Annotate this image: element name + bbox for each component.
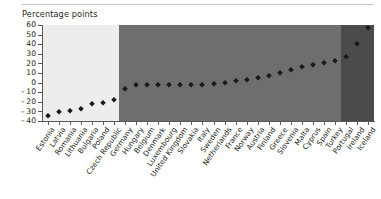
chart-figure: Percentage points –40–30–20–100102030405… xyxy=(0,0,381,199)
x-axis-tick xyxy=(147,121,148,125)
y-axis-tick-label: –30 xyxy=(21,108,36,116)
x-axis-tick xyxy=(158,121,159,125)
x-axis-tick xyxy=(302,121,303,125)
x-axis-tick xyxy=(357,121,358,125)
y-axis-tick xyxy=(38,44,42,45)
x-axis-tick xyxy=(125,121,126,125)
top-divider-rule xyxy=(22,4,374,5)
y-axis-tick-label: 20 xyxy=(26,60,36,68)
y-axis-tick xyxy=(38,54,42,55)
axis-title: Percentage points xyxy=(22,9,98,19)
y-axis-tick-label: 40 xyxy=(26,40,36,48)
x-axis-tick xyxy=(114,121,115,125)
x-axis-tick xyxy=(202,121,203,125)
x-axis-tick xyxy=(368,121,369,125)
y-axis-tick xyxy=(38,35,42,36)
y-axis-tick-label: –20 xyxy=(21,98,36,106)
y-axis-tick xyxy=(38,83,42,84)
x-axis-tick xyxy=(103,121,104,125)
x-axis-tick xyxy=(258,121,259,125)
x-axis-tick xyxy=(214,121,215,125)
x-axis-tick xyxy=(280,121,281,125)
band-mid xyxy=(119,25,340,121)
x-axis-tick xyxy=(225,121,226,125)
y-axis-tick-label: 30 xyxy=(26,50,36,58)
x-axis-tick xyxy=(346,121,347,125)
x-axis-tick xyxy=(236,121,237,125)
x-axis-tick xyxy=(191,121,192,125)
y-axis-tick-label: 10 xyxy=(26,69,36,77)
y-axis-tick-label: 60 xyxy=(26,21,36,29)
y-axis-tick-label: 50 xyxy=(26,31,36,39)
x-axis-tick xyxy=(92,121,93,125)
x-axis-tick xyxy=(313,121,314,125)
x-axis-tick xyxy=(48,121,49,125)
y-axis-tick xyxy=(38,63,42,64)
band-dark xyxy=(341,25,374,121)
y-axis-tick-label: –40 xyxy=(21,117,36,125)
y-axis-tick xyxy=(38,73,42,74)
x-axis-tick xyxy=(180,121,181,125)
x-axis-tick xyxy=(81,121,82,125)
y-axis-tick xyxy=(38,25,42,26)
x-axis-tick xyxy=(136,121,137,125)
x-axis-tick xyxy=(169,121,170,125)
y-axis-tick xyxy=(38,92,42,93)
x-axis-tick xyxy=(324,121,325,125)
y-axis-tick-label: –10 xyxy=(21,88,36,96)
y-axis-tick xyxy=(38,111,42,112)
y-axis-tick-label: 0 xyxy=(31,79,36,87)
x-axis-tick xyxy=(269,121,270,125)
x-axis-tick xyxy=(70,121,71,125)
y-axis-tick xyxy=(38,121,42,122)
x-axis-tick xyxy=(59,121,60,125)
x-axis-tick xyxy=(335,121,336,125)
x-axis-tick xyxy=(291,121,292,125)
y-axis-tick xyxy=(38,102,42,103)
